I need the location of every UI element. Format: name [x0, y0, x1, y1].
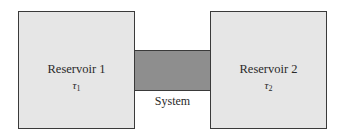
subscript: 2 — [268, 84, 272, 93]
reservoir-2: Reservoir 2 τ2 — [210, 11, 327, 129]
reservoir-1-temperature: τ1 — [19, 79, 134, 95]
reservoir-1: Reservoir 1 τ1 — [18, 11, 135, 129]
system-label: System — [135, 94, 210, 108]
subscript: 1 — [76, 84, 80, 93]
system-block — [135, 50, 210, 91]
reservoir-2-temperature: τ2 — [211, 79, 326, 95]
reservoir-1-label: Reservoir 1 — [19, 62, 134, 76]
reservoir-2-label: Reservoir 2 — [211, 62, 326, 76]
